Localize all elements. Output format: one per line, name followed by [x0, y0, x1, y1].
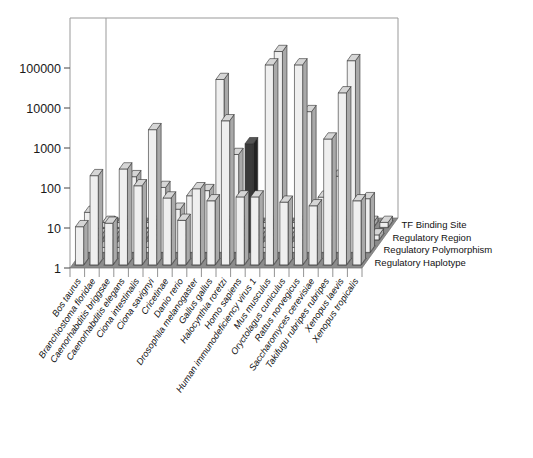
- three-d-bar-chart: 110100100010000100000 TF Binding SiteReg…: [0, 0, 533, 458]
- y-axis: 110100100010000100000: [19, 62, 70, 276]
- y-axis-tick-label: 1: [54, 262, 61, 276]
- legend-label: Regulatory Haplotype: [375, 257, 466, 268]
- legend-label: TF Binding Site: [402, 219, 467, 230]
- chart-container: 110100100010000100000 TF Binding SiteReg…: [0, 0, 533, 458]
- bar: [353, 195, 366, 265]
- bar: [75, 220, 88, 264]
- bars-layer: [75, 45, 392, 265]
- y-axis-tick-label: 100: [40, 182, 61, 196]
- bar: [338, 87, 351, 265]
- bar: [148, 123, 161, 264]
- bar: [265, 59, 278, 265]
- bar: [207, 195, 220, 265]
- y-axis-tick-label: 10000: [26, 102, 61, 116]
- bar: [119, 163, 132, 265]
- bar: [90, 169, 103, 264]
- bar: [134, 180, 147, 265]
- bar: [280, 196, 293, 265]
- y-axis-tick-label: 100000: [19, 62, 61, 76]
- bar: [178, 214, 191, 265]
- bar: [294, 59, 307, 265]
- bar: [236, 191, 249, 265]
- bar: [251, 191, 264, 265]
- x-axis-ticks: [70, 268, 362, 277]
- y-axis-tick-label: 10: [47, 222, 61, 236]
- bar: [105, 217, 118, 265]
- bar: [192, 183, 205, 265]
- category-labels: Bos taurusBranchiostoma floridaeCaenorha…: [37, 276, 361, 395]
- legend-label: Regulatory Polymorphism: [384, 244, 493, 255]
- bar: [163, 192, 176, 265]
- bar: [221, 115, 234, 265]
- bar: [309, 200, 322, 265]
- bar: [324, 133, 337, 265]
- legend-label: Regulatory Region: [393, 232, 472, 243]
- y-axis-tick-label: 1000: [33, 142, 61, 156]
